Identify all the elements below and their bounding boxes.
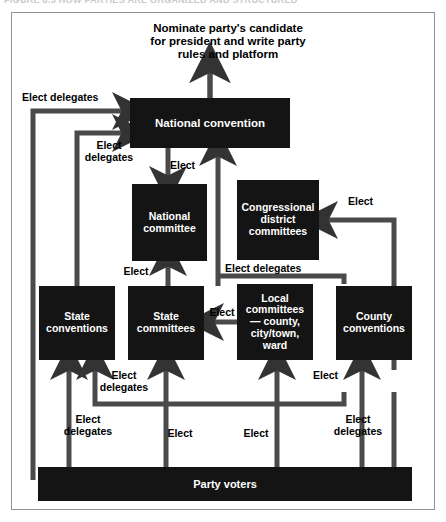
- node-national-committee[interactable]: National committee: [132, 184, 207, 261]
- node-local-committees[interactable]: Local committees— county, city/town, war…: [237, 284, 313, 360]
- node-party-voters-label: Party voters: [189, 478, 261, 490]
- edge-label-elect-state-committees-to-convention: Elect: [116, 266, 156, 278]
- node-state-committees-label: State committees: [128, 311, 204, 335]
- edge-label-elect-delegates-left2: Elect delegates: [80, 140, 138, 164]
- edge-label-elect-delegates-top-left: Elect delegates: [22, 92, 132, 104]
- edge-label-elect-delegates-bottom3: Elect delegates: [55, 414, 121, 438]
- edge-bottom-rail-right: [166, 392, 344, 404]
- edge-label-elect-to-national-committee: Elect: [170, 160, 210, 172]
- node-national-convention[interactable]: National convention: [130, 98, 290, 148]
- edge-label-elect-local-to-state-committees: Elect: [205, 307, 239, 319]
- edge-label-elect-bottom4: Elect: [160, 428, 200, 440]
- connector-layer: [0, 0, 446, 522]
- node-congressional-district-committees-label: Congressional district committees: [237, 202, 319, 237]
- node-state-committees[interactable]: State committees: [128, 286, 204, 360]
- edge-label-elect-delegates-mid: Elect delegates: [225, 263, 313, 275]
- outcome-text: Nominate party's candidate for president…: [143, 22, 313, 61]
- edge-elect-delegates-mid-rail: [218, 276, 344, 284]
- node-state-conventions-label: State conventions: [39, 311, 115, 335]
- edge-label-elect-to-congressional: Elect: [348, 196, 390, 208]
- node-party-voters[interactable]: Party voters: [38, 467, 412, 501]
- node-national-committee-label: National committee: [132, 211, 207, 235]
- edge-label-elect-bottom5: Elect: [236, 428, 276, 440]
- edge-label-elect-delegates-bottom1: Elect delegates: [94, 370, 154, 394]
- edge-label-elect-delegates-bottom6: Elect delegates: [325, 414, 391, 438]
- node-congressional-district-committees[interactable]: Congressional district committees: [237, 180, 319, 260]
- edge-label-elect-bottom2: Elect: [313, 370, 353, 382]
- node-state-conventions[interactable]: State conventions: [39, 286, 115, 360]
- diagram-page: FIGURE 8.3 HOW PARTIES ARE ORGANIZED AND…: [0, 0, 446, 522]
- node-national-convention-label: National convention: [151, 117, 269, 130]
- node-county-conventions-label: County conventions: [336, 311, 412, 335]
- node-local-committees-label: Local committees— county, city/town, war…: [237, 293, 313, 352]
- node-county-conventions[interactable]: County conventions: [336, 286, 412, 360]
